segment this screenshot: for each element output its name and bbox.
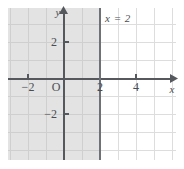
xtick-label-neg2: −2 <box>22 80 35 94</box>
graph-canvas: −2 2 4 2 −2 O x y x = 2 <box>0 0 184 169</box>
ytick-label-2: 2 <box>51 35 57 49</box>
coordinate-plane-figure: −2 2 4 2 −2 O x y x = 2 <box>0 0 184 169</box>
ytick-label-neg2: −2 <box>44 107 57 121</box>
x-axis-label: x <box>169 83 175 95</box>
xtick-label-4: 4 <box>133 80 139 94</box>
y-axis-label: y <box>55 6 61 18</box>
origin-label: O <box>52 80 61 94</box>
xtick-label-2: 2 <box>97 80 103 94</box>
line-equation-label: x = 2 <box>104 12 131 24</box>
